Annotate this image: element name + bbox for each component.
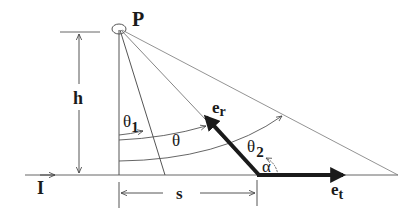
label-er: er [212, 98, 226, 119]
label-h: h [73, 88, 83, 108]
geometry-diagram: P h s I θ1 θ θ2 α er et [0, 0, 419, 221]
label-theta: θ [172, 131, 180, 150]
label-i: I [37, 178, 44, 198]
label-s: s [176, 184, 183, 203]
label-et: et [331, 180, 344, 202]
label-theta1: θ1 [123, 112, 139, 135]
theta1-ray [120, 30, 165, 175]
label-p: P [132, 8, 144, 30]
label-alpha: α [262, 157, 271, 176]
